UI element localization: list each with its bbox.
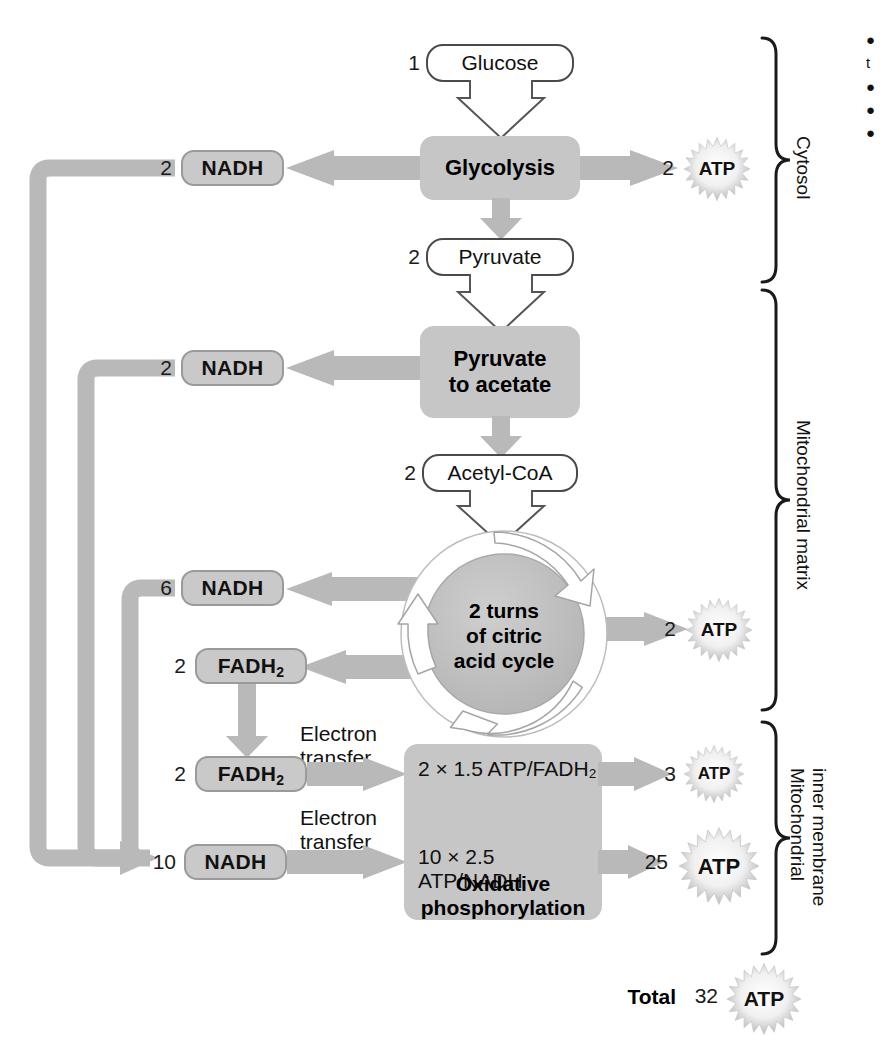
margin-caption-line-2: ● [866,75,881,98]
electron-transfer-2-line1: Electron [300,806,377,829]
nadh-etc-label: NADH [205,850,267,874]
fadh2-etc-text: FADH [218,762,276,785]
margin-caption-fragment: ● t ● ● ● [866,28,881,138]
oxphos-label-line2: phosphorylation [421,896,586,919]
atp-nadh-label: ATP [676,854,762,880]
arrow-glucose-to-glycolysis [456,80,546,142]
nadh-citric-label: NADH [202,576,264,600]
oxphos-label: Oxidative phosphorylation [404,872,602,921]
pyruvate-node: Pyruvate [426,238,574,276]
nadh-glycolysis-node: NADH [181,150,284,186]
oxphos-fadh2-equation-text: 2 × 1.5 ATP/FADH₂ [418,757,597,780]
glycolysis-node: Glycolysis [420,136,580,200]
atp-fadh2-count: 3 [654,763,676,784]
atp-nadh-burst: ATP [676,826,762,906]
margin-caption-line-4: ● [866,121,881,138]
glucose-label: Glucose [461,51,538,75]
nadh-glycolysis-count: 2 [150,157,172,178]
nadh-glycolysis-label: NADH [202,156,264,180]
atp-total-label: ATP [724,987,804,1011]
arrow-nadh-to-oxphos [287,845,407,879]
cycle-line2: of citric [466,624,542,647]
nadh-pyruvate-label: NADH [202,356,264,380]
atp-glycolysis-count: 2 [652,157,674,178]
atp-cycle-count: 2 [654,618,676,639]
margin-caption-line-0: ● [866,28,881,51]
pyruvate-to-acetate-line1: Pyruvate [454,346,547,371]
atp-nadh-count: 25 [634,851,668,872]
fadh2-etc-label: FADH2 [218,762,284,786]
electron-transfer-1-line1: Electron [300,722,377,745]
atp-fadh2-label: ATP [682,764,746,784]
acetyl-coa-count: 2 [394,462,416,483]
fadh2-citric-text: FADH [218,654,276,677]
inner-membrane-line1: Mitochondrial [786,768,808,906]
nadh-citric-node: NADH [181,570,284,606]
pyruvate-label: Pyruvate [459,245,542,269]
oxphos-fadh2-equation: 2 × 1.5 ATP/FADH₂ [418,757,598,781]
pyruvate-count: 2 [398,246,420,267]
cycle-line1: 2 turns [469,599,539,622]
nadh-etc-node: NADH [184,844,287,880]
fadh2-citric-label: FADH2 [218,654,284,678]
fadh2-citric-sub: 2 [276,664,284,680]
arrow-glycolysis-to-pyruvate [479,198,523,240]
atp-cycle-label: ATP [684,619,754,641]
nadh-etc-count: 10 [142,851,176,872]
nadh-pyruvate-node: NADH [181,350,284,386]
arrow-acetate-to-acetylcoa [479,416,523,458]
fadh2-citric-node: FADH2 [195,648,307,684]
citric-acid-cycle-node: 2 turns of citric acid cycle [398,528,610,740]
inner-membrane-line2: inner membrane [808,768,830,906]
atp-glycolysis-label: ATP [682,158,752,180]
pyruvate-to-acetate-node: Pyruvate to acetate [420,326,580,418]
total-count: 32 [684,985,718,1006]
compartment-label-inner-membrane: Mitochondrial inner membrane [786,768,830,906]
compartment-label-cytosol: Cytosol [792,136,814,199]
atp-fadh2-burst: ATP [682,744,746,804]
atp-cycle-burst: ATP [684,597,754,663]
compartment-label-mitochondrial-matrix: Mitochondrial matrix [792,420,814,590]
total-label: Total [598,985,676,1009]
fadh2-citric-count: 2 [164,655,186,676]
glucose-count: 1 [398,52,420,73]
atp-glycolysis-burst: ATP [682,136,752,202]
atp-total-burst: ATP [724,962,804,1036]
arrow-fadh2-to-oxphos [307,757,407,791]
margin-caption-line-3: ● [866,98,881,121]
nadh-citric-count: 6 [150,577,172,598]
nadh-pyruvate-count: 2 [150,357,172,378]
glucose-node: Glucose [426,44,574,82]
pyruvate-to-acetate-line2: to acetate [449,372,552,397]
fadh2-etc-node: FADH2 [195,756,307,792]
acetyl-coa-node: Acetyl-CoA [422,454,578,492]
glycolysis-label: Glycolysis [445,155,555,181]
pyruvate-to-acetate-label: Pyruvate to acetate [449,346,552,398]
margin-caption-line-1: t [866,51,881,74]
cycle-line3: acid cycle [454,649,554,672]
oxphos-label-line1: Oxidative [456,872,551,895]
fadh2-etc-sub: 2 [276,772,284,788]
fadh2-etc-count: 2 [164,763,186,784]
figure-canvas: 1 Glucose 2 NADH Glycolysis 2 [0,0,881,1056]
acetyl-coa-label: Acetyl-CoA [447,461,552,485]
arrow-fadh2-down [225,684,269,758]
